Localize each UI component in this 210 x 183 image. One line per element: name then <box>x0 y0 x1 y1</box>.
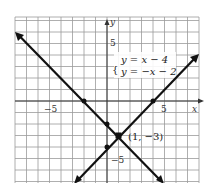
x-tick-5: 5 <box>161 104 167 114</box>
coordinate-plane: x y −5 5 5 −5 { y = x − 4 y = −x − 2 (1,… <box>0 0 210 183</box>
y-tick-neg5: −5 <box>111 155 125 165</box>
intersection-point <box>116 133 122 139</box>
x-tick-neg5: −5 <box>44 104 58 114</box>
y-axis-label: y <box>109 17 116 27</box>
point-4-0 <box>151 99 156 104</box>
y-axis-arrow-icon <box>105 19 110 25</box>
x-axis-arrow-icon <box>198 99 204 104</box>
y-tick-5: 5 <box>110 38 116 48</box>
point-0-neg2 <box>105 122 110 127</box>
point-neg2-0 <box>82 99 87 104</box>
equation-2: y = −x − 2 <box>120 66 177 77</box>
point-0-neg4 <box>105 145 110 150</box>
intersection-label: (1, −3) <box>128 131 163 142</box>
x-axis-label: x <box>192 104 197 114</box>
brace-icon: { <box>112 64 118 75</box>
equation-1: y = x − 4 <box>120 54 168 65</box>
